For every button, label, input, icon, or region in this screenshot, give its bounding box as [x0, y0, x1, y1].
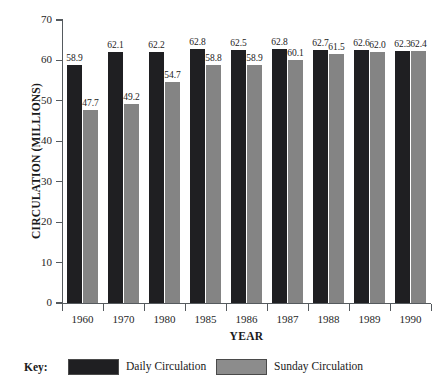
bar-daily-1986: [231, 50, 247, 303]
y-axis-tick: [56, 19, 63, 20]
bar-value-label-sunday-1985: 58.8: [197, 53, 231, 63]
legend-swatch-daily: [68, 359, 119, 375]
bar-value-label-sunday-1987: 60.1: [279, 48, 313, 58]
y-axis-tick-label: 10: [12, 257, 52, 268]
bar-value-label-sunday-1960: 47.7: [74, 98, 108, 108]
bar-sunday-1960: [83, 110, 99, 303]
x-axis-title: YEAR: [62, 330, 431, 342]
bar-value-label-daily-1986: 62.5: [222, 38, 256, 48]
legend-swatch-sunday: [216, 359, 267, 375]
x-axis-tick: [103, 304, 104, 311]
y-axis-tick: [56, 181, 63, 182]
bar-value-label-daily-1980: 62.2: [140, 40, 174, 50]
y-axis-tick-label: 50: [12, 95, 52, 106]
y-axis-tick: [56, 222, 63, 223]
bar-daily-1985: [190, 49, 206, 303]
bar-sunday-1985: [206, 65, 222, 303]
y-axis-tick: [56, 141, 63, 142]
circulation-bar-chart: CIRCULATION (MILLIONS) 010203040506070 5…: [0, 0, 441, 389]
y-axis-tick-label: 0: [12, 297, 52, 308]
bar-sunday-1980: [165, 82, 181, 303]
bar-daily-1988: [313, 50, 329, 303]
bar-sunday-1990: [411, 51, 427, 303]
chart-legend: Key: Daily Circulation Sunday Circulatio…: [24, 358, 424, 380]
legend-label-daily: Daily Circulation: [126, 360, 206, 372]
y-axis-tick-label: 70: [12, 14, 52, 25]
y-axis-tick-label: 60: [12, 54, 52, 65]
y-axis-tick: [56, 100, 63, 101]
x-axis-line: [62, 303, 431, 304]
bar-daily-1970: [108, 52, 124, 303]
legend-label-sunday: Sunday Circulation: [274, 360, 363, 372]
bar-daily-1990: [395, 51, 411, 303]
bar-sunday-1970: [124, 104, 140, 303]
bar-sunday-1987: [288, 60, 304, 303]
bar-value-label-sunday-1986: 58.9: [238, 53, 272, 63]
x-axis-tick: [308, 304, 309, 311]
x-axis-tick: [144, 304, 145, 311]
bar-value-label-daily-1985: 62.8: [181, 37, 215, 47]
y-axis-tick: [56, 262, 63, 263]
bar-sunday-1989: [370, 52, 386, 303]
bar-value-label-daily-1970: 62.1: [99, 40, 133, 50]
y-axis-tick-label: 40: [12, 135, 52, 146]
bar-value-label-daily-1987: 62.8: [263, 37, 297, 47]
bar-daily-1987: [272, 49, 288, 303]
x-axis-tick: [349, 304, 350, 311]
bar-daily-1980: [149, 52, 165, 303]
y-axis-title: CIRCULATION (MILLIONS): [30, 61, 42, 261]
bar-daily-1989: [354, 50, 370, 303]
y-axis-tick-label: 30: [12, 176, 52, 187]
x-axis-tick: [62, 304, 63, 311]
x-axis-tick: [226, 304, 227, 311]
bar-value-label-daily-1960: 58.9: [58, 53, 92, 63]
bar-value-label-sunday-1990: 62.4: [402, 39, 436, 49]
bar-sunday-1986: [247, 65, 263, 303]
bar-value-label-sunday-1970: 49.2: [115, 92, 149, 102]
bar-sunday-1988: [329, 54, 345, 303]
legend-key-label: Key:: [24, 361, 48, 373]
x-axis-tick: [267, 304, 268, 311]
bar-value-label-sunday-1980: 54.7: [156, 70, 190, 80]
y-axis-tick-label: 20: [12, 216, 52, 227]
x-axis-tick: [185, 304, 186, 311]
x-axis-tick-label-1990: 1990: [386, 313, 436, 325]
x-axis-tick: [431, 304, 432, 311]
x-axis-tick: [390, 304, 391, 311]
